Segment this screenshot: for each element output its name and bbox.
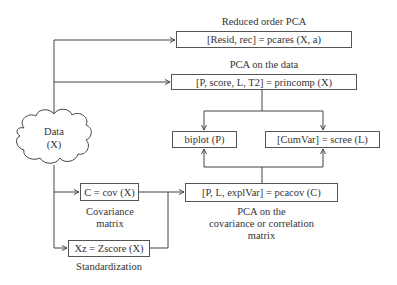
- pcacov-caption-line3: matrix: [185, 230, 338, 242]
- data-node-var: (X): [34, 138, 74, 151]
- cov-caption-line2: matrix: [75, 218, 145, 230]
- reduced-pca-title: Reduced order PCA: [176, 16, 352, 28]
- pcacov-caption-line1: PCA on the: [185, 206, 338, 218]
- pcares-box: [Resid, rec] = pcares (X, a): [176, 31, 352, 48]
- pca-data-title: PCA on the data: [171, 59, 357, 71]
- cov-caption-line1: Covariance: [75, 206, 145, 218]
- cov-box: C = cov (X): [80, 183, 139, 201]
- zscore-caption: Standardization: [64, 261, 154, 273]
- scree-box: [CumVar] = scree (L): [265, 131, 380, 148]
- pcacov-box: [P, L, explVar] = pcacov (C): [185, 183, 338, 202]
- data-node: Data (X): [34, 125, 74, 151]
- princomp-box: [P, score, L, T2] = princomp (X): [171, 74, 357, 90]
- cov-caption: Covariance matrix: [75, 206, 145, 230]
- biplot-box: biplot (P): [172, 131, 237, 148]
- pcacov-caption-line2: covariance or correlation: [185, 218, 338, 230]
- data-node-label: Data: [34, 125, 74, 138]
- pcacov-caption: PCA on the covariance or correlation mat…: [185, 206, 338, 242]
- zscore-box: Xz = Zscore (X): [68, 240, 150, 257]
